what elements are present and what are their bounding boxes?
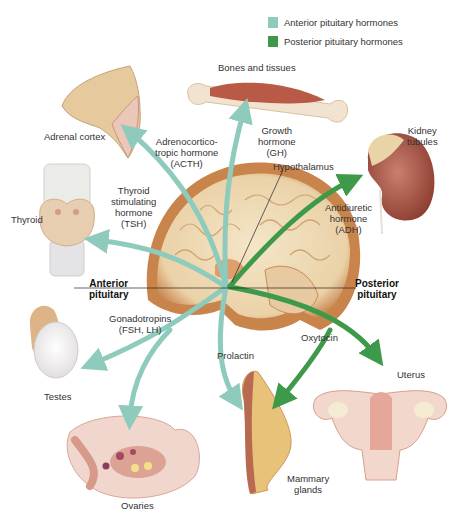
legend-label: Posterior pituitary hormones [284, 36, 403, 47]
pituitary-hormone-diagram: Anterior pituitary hormones Posterior pi… [0, 0, 459, 517]
label-testes: Testes [44, 391, 71, 402]
label-kidney-tubules: Kidneytubules [407, 125, 438, 147]
label-bones-and-tissues: Bones and tissues [218, 62, 296, 73]
legend-item-posterior: Posterior pituitary hormones [268, 32, 403, 51]
thyroid-illustration [40, 164, 95, 276]
legend-item-anterior: Anterior pituitary hormones [268, 13, 403, 32]
label-hypothalamus: Hypothalamus [273, 161, 334, 172]
label-prolactin: Prolactin [217, 350, 254, 361]
label-adh: Antidiuretichormone(ADH) [325, 202, 372, 235]
legend: Anterior pituitary hormones Posterior pi… [268, 13, 403, 51]
label-ovaries: Ovaries [121, 500, 154, 511]
kidney-illustration [368, 133, 435, 234]
adrenal-illustration [62, 66, 140, 158]
label-anterior-pituitary: Anteriorpituitary [89, 278, 128, 300]
label-mammary-glands: Mammaryglands [287, 473, 329, 495]
label-tsh: Thyroidstimulatinghormone(TSH) [111, 185, 156, 229]
anterior-swatch [268, 17, 278, 28]
label-acth: Adrenocortico-tropic hormone(ACTH) [155, 136, 218, 169]
label-oxytocin: Oxytocin [301, 332, 338, 343]
mammary-illustration [242, 371, 291, 494]
legend-label: Anterior pituitary hormones [284, 17, 398, 28]
uterus-illustration [313, 391, 446, 480]
bone-muscle-illustration [188, 83, 348, 122]
label-adrenal-cortex: Adrenal cortex [44, 131, 105, 142]
label-uterus: Uterus [397, 369, 425, 380]
posterior-swatch [268, 36, 278, 47]
testes-illustration [30, 306, 78, 378]
ovaries-illustration [67, 416, 199, 498]
label-thyroid: Thyroid [11, 214, 43, 225]
label-gh: Growthhormone(GH) [258, 125, 296, 158]
label-gonadotropins: Gonadotropins(FSH, LH) [109, 313, 171, 335]
label-posterior-pituitary: Posteriorpituitary [355, 278, 399, 300]
diagram-artwork [0, 0, 459, 517]
